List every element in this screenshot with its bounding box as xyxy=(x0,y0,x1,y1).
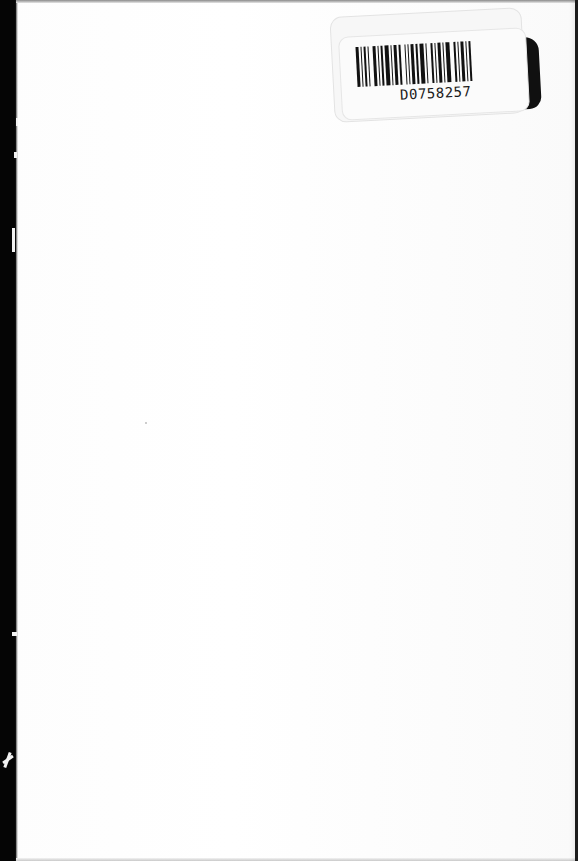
paper-tear xyxy=(12,228,15,252)
paper-tear xyxy=(14,152,17,158)
dust-speck xyxy=(145,422,147,424)
scanned-page: D0758257 xyxy=(0,0,578,861)
binding-edge-shadow xyxy=(0,0,16,861)
paper-tear xyxy=(16,118,18,126)
barcode-number: D0758257 xyxy=(400,83,472,103)
top-page-edge xyxy=(16,0,578,3)
library-barcode-sticker: D0758257 xyxy=(332,8,532,116)
paper-tear xyxy=(12,632,17,636)
barcode-icon xyxy=(355,39,512,87)
barcode-label: D0758257 xyxy=(338,27,530,121)
